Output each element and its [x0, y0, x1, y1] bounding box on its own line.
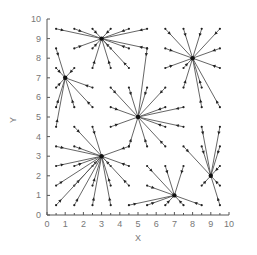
x-tick-label: 9 — [208, 219, 213, 229]
vector-arrow — [102, 156, 130, 167]
vector-arrow — [55, 47, 65, 78]
y-axis-label: Y — [8, 117, 18, 123]
vector-arrow — [102, 39, 112, 70]
y-tick-label: 7 — [36, 73, 41, 83]
vector-arrow — [193, 47, 221, 58]
x-tick-label: 10 — [224, 219, 234, 229]
vector-arrow — [146, 185, 174, 196]
center-point — [136, 115, 140, 119]
arrowhead-icon — [133, 203, 136, 206]
y-tick-label: 8 — [36, 53, 41, 63]
vector-arrow — [110, 117, 138, 128]
vector-arrow — [55, 28, 102, 39]
arrowhead-icon — [217, 131, 220, 134]
x-tick-label: 7 — [172, 219, 177, 229]
vector-arrow — [102, 28, 149, 39]
arrowhead-icon — [60, 163, 63, 166]
vector-arrow — [91, 126, 101, 156]
center-point — [99, 36, 103, 40]
vector-arrow — [138, 47, 148, 117]
x-tick-label: 6 — [154, 219, 159, 229]
vector-arrow — [128, 117, 138, 147]
y-tick-label: 9 — [36, 34, 41, 44]
vector-arrow — [110, 106, 138, 117]
vector-arrow — [174, 195, 202, 206]
y-tick-label: 10 — [31, 14, 41, 24]
y-tick-label: 1 — [36, 190, 41, 200]
vector-arrow — [193, 58, 221, 69]
vector-arrow — [201, 176, 211, 187]
y-tick-label: 4 — [36, 132, 41, 142]
x-tick-label: 1 — [63, 219, 68, 229]
arrowhead-icon — [139, 28, 142, 31]
x-tick-label: 0 — [44, 219, 49, 229]
arrowhead-icon — [139, 46, 142, 49]
vector-arrow — [73, 39, 101, 50]
center-point — [172, 193, 176, 197]
vector-arrow — [55, 156, 102, 167]
x-tick-label: 8 — [190, 219, 195, 229]
vector-arrow — [174, 165, 184, 196]
vector-arrow — [91, 39, 101, 70]
vector-arrow — [211, 126, 221, 176]
vector-arrow — [164, 47, 192, 58]
vector-arrow — [55, 145, 102, 156]
center-point — [63, 76, 67, 80]
y-tick-label: 2 — [36, 171, 41, 181]
vector-arrow — [65, 78, 75, 108]
vector-arrow — [182, 28, 192, 59]
vector-arrow — [164, 58, 192, 69]
arrowhead-icon — [60, 146, 63, 149]
vector-arrow — [193, 58, 203, 108]
y-tick-label: 3 — [36, 151, 41, 161]
vector-arrow — [182, 58, 192, 88]
axes: 012345678910 012345678910 X Y — [8, 14, 234, 243]
vector-arrow — [138, 117, 185, 128]
vector-arrow — [55, 78, 65, 128]
y-tick-label: 0 — [36, 210, 41, 220]
vector-field-chart: 012345678910 012345678910 X Y — [0, 0, 257, 255]
vector-arrow — [128, 87, 138, 118]
arrowhead-icon — [199, 99, 202, 102]
vector-arrow — [102, 156, 112, 206]
vector-arrow — [193, 28, 203, 59]
arrowhead-icon — [201, 131, 204, 134]
arrowhead-icon — [55, 119, 58, 122]
vector-arrow — [138, 117, 148, 147]
vector-arrow — [211, 176, 221, 206]
center-point — [209, 174, 213, 178]
vector-arrow — [65, 78, 93, 89]
center-point — [99, 154, 103, 158]
vector-arrow — [201, 126, 211, 176]
x-tick-label: 2 — [81, 219, 86, 229]
vector-arrow — [91, 156, 101, 206]
y-tick-label: 6 — [36, 92, 41, 102]
vector-arrow — [164, 165, 174, 196]
arrowhead-icon — [60, 28, 63, 31]
vector-arrow — [138, 87, 148, 118]
arrowhead-icon — [108, 197, 111, 200]
vector-arrow — [102, 145, 130, 156]
x-tick-label: 4 — [117, 219, 122, 229]
center-point — [190, 56, 194, 60]
x-tick-label: 3 — [99, 219, 104, 229]
x-axis-label: X — [135, 233, 141, 243]
vector-arrow — [102, 39, 149, 50]
arrowhead-icon — [176, 124, 179, 127]
x-tick-label: 5 — [135, 219, 140, 229]
vector-arrow — [138, 106, 185, 117]
vector-arrow — [128, 195, 175, 206]
arrowhead-icon — [92, 197, 95, 200]
vector-arrow — [65, 67, 75, 78]
arrowhead-icon — [176, 107, 179, 110]
y-tick-label: 5 — [36, 112, 41, 122]
